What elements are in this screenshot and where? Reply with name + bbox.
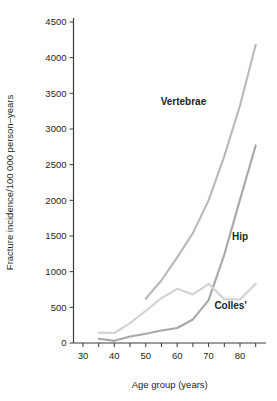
y-tick-label: 1500 [45,230,66,241]
x-tick-label: 30 [78,350,89,361]
y-tick-label: 1000 [45,266,66,277]
x-tick-label: 70 [203,350,214,361]
y-axis-title: Fracture incidence/100 000 person–years [4,95,15,271]
y-tick-label: 2500 [45,159,66,170]
series-label-hip: Hip [232,231,248,242]
chart-canvas: 0500100015002000250030003500400045003040… [0,0,277,401]
series-line-vertebrae [146,45,256,299]
y-tick-label: 4500 [45,16,66,27]
y-tick-label: 4000 [45,52,66,63]
y-tick-label: 3500 [45,88,66,99]
x-tick-label: 80 [235,350,246,361]
series-label-vertebrae: Vertebrae [161,96,207,107]
x-tick-label: 50 [140,350,151,361]
fracture-incidence-chart: 0500100015002000250030003500400045003040… [0,0,277,401]
y-tick-label: 0 [61,337,66,348]
y-tick-label: 3000 [45,123,66,134]
x-axis-title: Age group (years) [132,379,208,390]
x-tick-label: 60 [172,350,183,361]
series-line-hip [99,145,256,340]
y-tick-label: 2000 [45,195,66,206]
series-label-colles: Colles' [214,300,246,311]
x-tick-label: 40 [109,350,120,361]
y-tick-label: 500 [51,302,67,313]
